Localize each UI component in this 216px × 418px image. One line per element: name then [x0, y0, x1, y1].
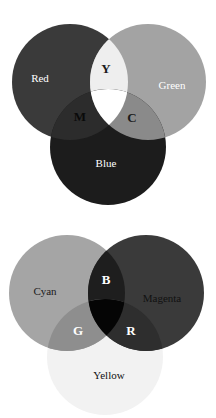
b-overlap-label: B: [102, 272, 111, 287]
m-overlap-label: M: [74, 109, 86, 124]
blue-label: Blue: [96, 157, 117, 169]
color-venn-diagrams: Red Green Blue Y M C Cyan Magenta Yellow…: [0, 0, 216, 418]
cyan-label: Cyan: [33, 285, 57, 297]
yellow-label: Yellow: [93, 369, 124, 381]
red-label: Red: [31, 72, 49, 84]
c-overlap-label: C: [127, 110, 136, 125]
additive-diagram: Red Green Blue Y M C: [12, 24, 206, 205]
g-overlap-label: G: [73, 323, 83, 338]
green-label: Green: [159, 79, 186, 91]
r-overlap-label: R: [126, 323, 136, 338]
magenta-label: Magenta: [143, 292, 182, 304]
y-overlap-label: Y: [101, 61, 111, 76]
subtractive-diagram: Cyan Magenta Yellow B G R: [9, 235, 204, 415]
